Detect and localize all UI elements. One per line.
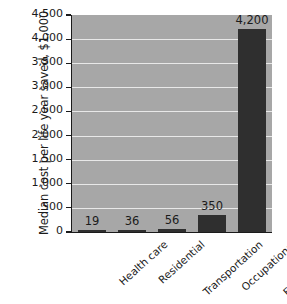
- y-axis-tick: [66, 87, 71, 88]
- bar: [158, 229, 186, 232]
- y-axis-tick-label: 2,500: [19, 103, 63, 116]
- y-axis-tick: [66, 135, 71, 136]
- bar: [78, 230, 106, 233]
- y-axis-tick-label: 2,000: [19, 128, 63, 141]
- y-axis-tick-label: 1,500: [19, 152, 63, 165]
- y-axis-tick-label: 0: [19, 224, 63, 237]
- y-axis-tick-label: 4,500: [19, 7, 63, 20]
- y-axis-tick: [66, 207, 71, 208]
- bar-value-label: 350: [182, 199, 242, 213]
- y-axis-tick-label: 4,000: [19, 31, 63, 44]
- y-axis-tick-label: 1,000: [19, 176, 63, 189]
- plot-area: [72, 15, 272, 232]
- y-axis-tick: [66, 159, 71, 160]
- y-axis-tick-label: 3,500: [19, 55, 63, 68]
- y-axis-tick: [66, 39, 71, 40]
- y-axis-tick: [66, 183, 71, 184]
- bar-chart: Median cost per life year saved, $1,000 …: [0, 0, 287, 304]
- y-axis-tick: [66, 14, 71, 15]
- y-axis-tick: [66, 231, 71, 232]
- y-axis-tick: [66, 63, 71, 64]
- x-axis-line: [71, 232, 272, 233]
- bar: [118, 230, 146, 233]
- y-axis-tick-label: 500: [19, 200, 63, 213]
- bar: [198, 215, 226, 232]
- bar-value-label: 56: [142, 213, 202, 227]
- bar-value-label: 4,200: [222, 13, 282, 27]
- bar: [238, 29, 266, 232]
- y-axis-tick-label: 3,000: [19, 79, 63, 92]
- y-axis-tick: [66, 111, 71, 112]
